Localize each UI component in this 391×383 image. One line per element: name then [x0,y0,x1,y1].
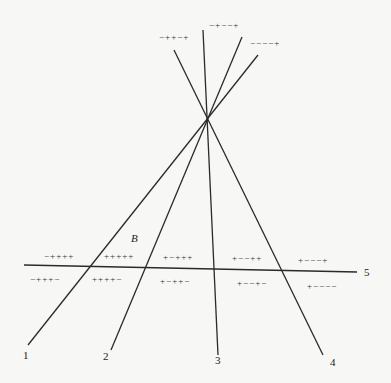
line-number-1: 1 [23,349,29,361]
line-number-4: 4 [330,356,336,368]
lower-label-4: +−−+− [237,278,267,288]
upper-label-5: +−−−+ [298,255,328,265]
upper-label-3: +−+++ [163,252,193,262]
diagram-lines [0,0,391,383]
line-number-2: 2 [103,350,109,362]
top-label-left: −++−+ [159,32,189,42]
lower-label-1: −+++− [30,274,60,284]
line-number-3: 3 [215,354,221,366]
line-5 [24,265,357,272]
top-label-right: −−−−+ [250,38,280,48]
line-3 [203,30,218,355]
upper-label-1: −++++ [44,251,74,261]
line-number-5: 5 [364,266,370,278]
upper-label-4: +−−++ [232,253,262,263]
top-label-middle: −+−−+ [209,20,239,30]
upper-label-2: +++++ [104,251,134,261]
lower-label-5: +−−−− [307,281,337,291]
lower-label-2: ++++− [92,274,122,284]
line-2 [111,37,242,350]
lower-label-3: +−++− [160,276,190,286]
region-label-b: B [131,232,138,244]
line-1 [28,55,258,345]
line-4 [174,50,323,355]
